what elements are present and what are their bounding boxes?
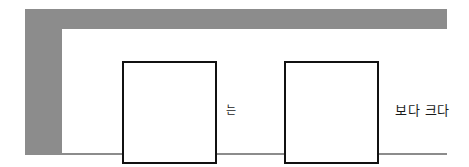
- worksheet-screenshot: 는 보다 크다: [0, 0, 469, 167]
- white-content-panel: 는 보다 크다: [62, 29, 461, 153]
- comparison-label: 보다 크다: [395, 104, 450, 117]
- right-answer-box[interactable]: [284, 61, 379, 164]
- gray-border-frame: 는 보다 크다: [25, 9, 447, 155]
- left-answer-box[interactable]: [122, 61, 217, 164]
- particle-label: 는: [226, 105, 236, 116]
